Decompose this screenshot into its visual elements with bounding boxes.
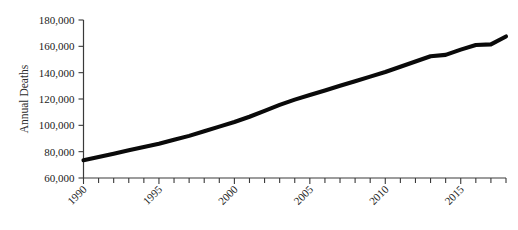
x-axis-tick-label: 1995 [140,183,164,207]
y-axis-title: Annual Deaths [18,64,30,133]
data-series-line [84,36,507,160]
x-axis-tick-labels: 199019952000200520102015 [65,183,467,207]
y-axis-tick-label: 80,000 [44,146,75,158]
y-axis-title-group: Annual Deaths [18,64,30,133]
y-axis-tick-label: 160,000 [39,40,75,52]
line-chart: Annual Deaths 60,00080,000100,000120,000… [0,0,518,230]
x-axis-tick-label: 1990 [65,183,89,207]
y-axis-tick-labels: 60,00080,000100,000120,000140,000160,000… [39,14,75,184]
y-axis-tick-label: 120,000 [39,93,75,105]
x-axis-tick-label: 2005 [291,183,315,207]
x-axis-tick-marks [84,178,507,184]
y-axis-tick-marks [79,20,84,178]
x-axis-tick-label: 2015 [442,183,466,207]
y-axis-tick-label: 180,000 [39,14,75,26]
y-axis-tick-label: 60,000 [44,172,75,184]
y-axis-tick-label: 140,000 [39,67,75,79]
chart-canvas: Annual Deaths 60,00080,000100,000120,000… [0,0,518,230]
y-axis-tick-label: 100,000 [39,119,75,131]
x-axis-tick-label: 2010 [367,183,391,207]
x-axis-tick-label: 2000 [216,183,240,207]
